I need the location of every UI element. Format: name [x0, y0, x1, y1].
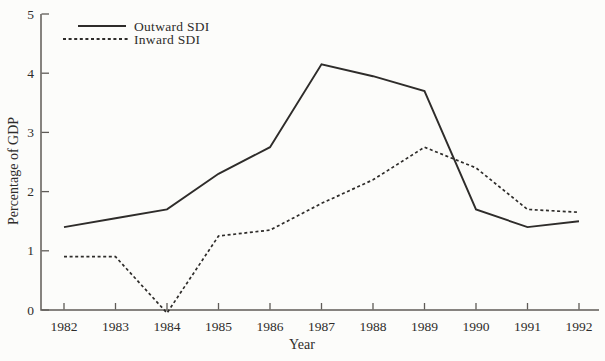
x-tick-label-1983: 1983 [102, 319, 129, 334]
x-tick-label-1990: 1990 [463, 319, 490, 334]
y-tick-label-3: 3 [27, 125, 34, 140]
legend-label: Inward SDI [134, 32, 201, 47]
x-tick-label-1988: 1988 [360, 319, 387, 334]
y-axis-title: Percentage of GDP [6, 117, 21, 225]
x-tick-label-1992: 1992 [566, 319, 593, 334]
y-tick-label-5: 5 [27, 7, 34, 22]
y-tick-label-4: 4 [27, 66, 34, 81]
line-chart-figure: 0123451982198319841985198619871988198919… [0, 0, 605, 361]
legend-item-inward-sdi: Inward SDI [63, 32, 201, 47]
x-tick-label-1985: 1985 [205, 319, 232, 334]
series-line-inward-sdi [64, 147, 579, 313]
x-tick-label-1987: 1987 [308, 319, 335, 334]
legend: Outward SDIInward SDI [63, 19, 210, 47]
line-chart: 0123451982198319841985198619871988198919… [0, 0, 605, 361]
x-tick-label-1991: 1991 [514, 319, 541, 334]
x-tick-label-1982: 1982 [51, 319, 78, 334]
x-tick-label-1984: 1984 [154, 319, 181, 334]
x-tick-label-1986: 1986 [257, 319, 284, 334]
y-tick-label-2: 2 [27, 184, 34, 199]
x-tick-label-1989: 1989 [411, 319, 438, 334]
x-axis-title: Year [289, 337, 315, 352]
y-tick-label-1: 1 [27, 243, 34, 258]
y-tick-label-0: 0 [27, 303, 34, 318]
